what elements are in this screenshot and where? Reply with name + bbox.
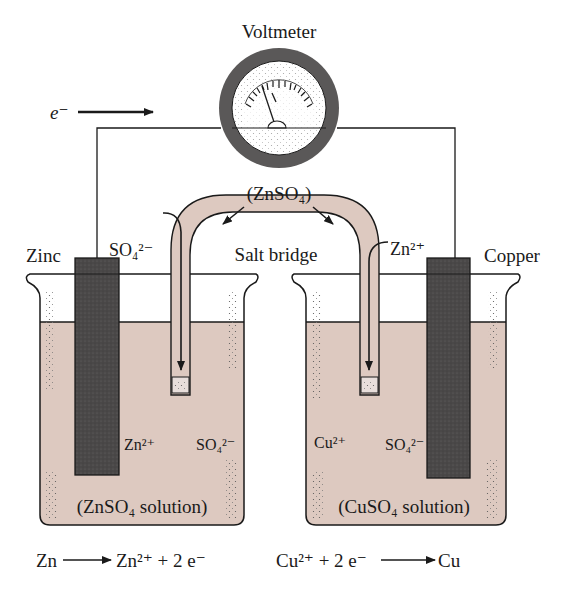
cathode-half-reaction: Cu²⁺ + 2 e⁻ Cu [276,550,461,571]
bridge-anion-label: SO₄²⁻ [109,240,153,260]
copper-solution-label: (CuSO₄ solution) [338,496,470,518]
anode-product: Zn²⁺ + 2 e⁻ [116,550,206,571]
cathode-product: Cu [438,550,461,571]
electron-label: e⁻ [50,102,68,123]
copper-beaker [292,274,520,525]
galvanic-cell-diagram: e⁻ Voltmeter [0,0,574,592]
salt-bridge-label: Salt bridge [235,244,318,265]
zinc-cation-label: Zn²⁺ [124,436,155,453]
zinc-solution-label: (ZnSO₄ solution) [77,496,208,518]
copper-cation-label: Cu²⁺ [314,434,346,451]
cathode-reactant: Cu²⁺ + 2 e⁻ [276,550,367,571]
copper-electrode [427,258,470,478]
copper-label: Copper [484,245,541,266]
anode-reactant: Zn [36,550,58,571]
copper-anion-label: SO₄²⁻ [385,436,424,453]
zinc-anion-label: SO₄²⁻ [196,436,235,453]
anode-half-reaction: Zn Zn²⁺ + 2 e⁻ [36,550,206,571]
voltmeter-title: Voltmeter [242,21,317,42]
voltmeter [219,48,339,168]
salt-bridge-electrolyte: (ZnSO₄) [247,183,312,205]
zinc-beaker [26,274,258,525]
zinc-electrode [75,258,119,475]
zinc-label: Zinc [26,245,61,266]
bridge-cation-label: Zn²⁺ [390,239,425,259]
